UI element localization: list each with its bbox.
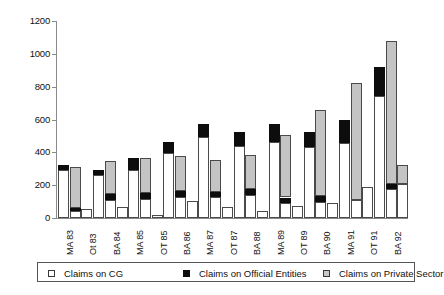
bar-segment-claims-on-official-entities [374,67,385,96]
bar-group [292,206,303,218]
bar-segment-claims-on-private-sector [280,135,291,197]
bar-group [117,207,128,218]
bar-segment-claims-on-official-entities [269,124,280,143]
bar-segment-claims-on-private-sector [210,160,221,192]
legend-item: Claims on CG [48,267,123,279]
bar-segment-claims-on-cg [339,143,350,218]
bar-segment-claims-on-private-sector [140,158,151,192]
bar-segment-claims-on-official-entities [234,132,245,146]
bar-group [198,124,209,218]
bar-segment-claims-on-cg [163,153,174,218]
x-axis-tick-label: OT 91 [370,231,379,255]
bar-group [210,160,221,218]
x-axis-tick-label: BA 86 [183,231,192,255]
bar-segment-claims-on-official-entities [280,198,291,204]
bar-segment-claims-on-cg [280,203,291,218]
legend-swatch-cg-icon [48,270,55,277]
bar-group [58,165,69,218]
bar-segment-claims-on-official-entities [70,208,81,211]
bar-group [81,209,92,218]
bar-segment-claims-on-cg [93,175,104,219]
bar-group [234,132,245,218]
bar-segment-claims-on-private-sector [70,167,81,208]
bar-group [327,203,338,218]
y-axis-tick-label: 1200 [2,16,50,26]
legend-swatch-oe-icon [183,270,190,277]
bar-group [128,158,139,218]
bar-segment-claims-on-private-sector [397,165,408,184]
bar-group [140,158,151,218]
bar-segment-claims-on-private-sector [105,161,116,195]
bar-segment-claims-on-official-entities [210,192,221,197]
bar-segment-claims-on-official-entities [128,158,139,170]
bar-segment-claims-on-cg [152,215,163,218]
legend-label: Claims on Official Entities [199,268,307,279]
bar-segment-claims-on-official-entities [105,194,116,200]
bar-group [269,124,280,218]
bar-segment-claims-on-official-entities [163,142,174,153]
bar-group [397,165,408,218]
legend-item: Claims on Private Sector [323,267,444,279]
bar-group [245,155,256,218]
bar-segment-claims-on-official-entities [304,132,315,148]
bar-group [222,207,233,218]
bar-segment-claims-on-official-entities [58,165,69,169]
bar-segment-claims-on-cg [351,200,362,218]
bar-segment-claims-on-cg [140,199,151,218]
bar-group [304,132,315,218]
y-axis-tick [52,218,57,219]
bar-group [351,83,362,218]
bar-segment-claims-on-official-entities [198,124,209,137]
x-axis-tick-label: OT 89 [300,231,309,255]
bar-segment-claims-on-cg [386,189,397,218]
chart-legend: Claims on CGClaims on Official EntitiesC… [37,262,415,282]
bar-segment-claims-on-cg [362,187,373,218]
bar-segment-claims-on-cg [292,206,303,218]
bar-group [163,142,174,218]
bar-segment-claims-on-cg [210,197,221,218]
bar-segment-claims-on-cg [397,184,408,218]
bar-group [362,187,373,218]
bar-segment-claims-on-official-entities [339,120,350,143]
bar-segment-claims-on-cg [175,197,186,218]
bar-segment-claims-on-official-entities [93,170,104,174]
bar-segment-claims-on-official-entities [245,189,256,195]
y-axis-tick-label: 1000 [2,49,50,59]
bar-segment-claims-on-cg [304,147,315,218]
bar-group [152,215,163,218]
x-axis-tick-label: MA 87 [206,230,215,255]
plot-area [57,21,408,218]
bar-segment-claims-on-cg [198,137,209,218]
bar-segment-claims-on-private-sector [351,83,362,200]
bar-segment-claims-on-official-entities [386,184,397,189]
bar-segment-claims-on-private-sector [175,156,186,191]
bar-group [105,161,116,218]
y-axis-tick-label: 0 [2,213,50,223]
bar-segment-claims-on-cg [117,207,128,218]
bar-segment-claims-on-official-entities [175,191,186,198]
x-axis-tick-label: BA 84 [113,231,122,255]
x-axis-tick-label: MA 85 [136,230,145,255]
legend-swatch-ps-icon [323,270,330,277]
legend-label: Claims on Private Sector [339,268,444,279]
y-axis-labels: 120010008006004002000 [0,0,50,240]
x-axis-tick-label: BA 92 [394,231,403,255]
bar-segment-claims-on-cg [374,96,385,218]
legend-item: Claims on Official Entities [183,267,307,279]
bar-segment-claims-on-private-sector [245,155,256,189]
bar-segment-claims-on-private-sector [386,41,397,185]
bar-segment-claims-on-cg [105,200,116,218]
bar-segment-claims-on-cg [257,211,268,218]
bar-segment-claims-on-cg [327,203,338,218]
bar-group [280,135,291,218]
x-axis-tick-label: BA 88 [253,231,262,255]
bar-segment-claims-on-cg [269,142,280,218]
bar-segment-claims-on-cg [128,170,139,218]
legend-label: Claims on CG [64,268,123,279]
bar-segment-claims-on-cg [70,211,81,218]
bar-segment-claims-on-cg [81,209,92,218]
y-axis-tick-label: 800 [2,82,50,92]
y-axis-tick-label: 400 [2,147,50,157]
bar-segment-claims-on-official-entities [140,193,151,200]
